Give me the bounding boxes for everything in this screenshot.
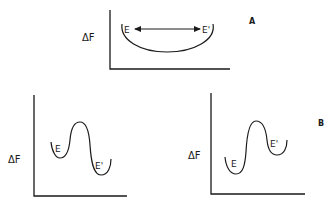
panel-a: E E' ΔF A <box>82 10 256 69</box>
panel-a-label: A <box>249 17 256 26</box>
panel-b-right: E E' ΔF B <box>188 93 324 194</box>
panel-a-state-e: E <box>124 25 130 35</box>
panel-b-left: E E' ΔF <box>8 95 127 196</box>
panel-b-left-y-axis-label: ΔF <box>8 154 21 165</box>
panel-b-label: B <box>318 119 324 128</box>
panel-b-left-state-e: E <box>55 144 61 154</box>
panel-b-right-state-e-prime: E' <box>270 139 278 149</box>
panel-a-state-e-prime: E' <box>202 25 210 35</box>
free-energy-diagram: E E' ΔF A E E' ΔF E E' ΔF B <box>0 0 331 200</box>
panel-b-left-axes <box>34 95 127 196</box>
panel-b-right-y-axis-label: ΔF <box>188 150 201 161</box>
panel-b-right-axes <box>211 93 305 194</box>
panel-b-left-state-e-prime: E' <box>95 161 103 171</box>
panel-a-well-curve <box>122 24 213 52</box>
panel-b-right-state-e: E <box>231 159 237 169</box>
panel-a-y-axis-label: ΔF <box>82 32 95 43</box>
